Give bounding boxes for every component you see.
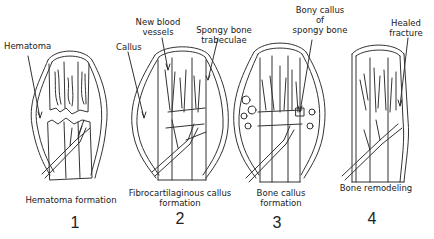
- stage-2-bone-drawing: [132, 47, 229, 180]
- hematoma-arrow: [28, 56, 40, 118]
- stage-4-bone-drawing: [342, 45, 409, 182]
- label-line: spongy bone: [288, 25, 352, 35]
- stage-number-3: 3: [262, 214, 292, 232]
- label-line: fracture: [384, 28, 428, 38]
- label-line: Healed: [384, 18, 428, 28]
- caption-line: Bone callus: [246, 188, 316, 198]
- label-line: Bony callus: [288, 5, 352, 15]
- label-line: Spongy bone: [192, 25, 256, 35]
- caption-line: formation: [118, 198, 242, 208]
- label-line: New blood: [131, 17, 185, 27]
- label-bony-callus-of-spongy-bone: Bony callus of spongy bone: [288, 5, 352, 35]
- stage-3-bone-drawing: [234, 43, 325, 182]
- stage-number-2: 2: [165, 210, 195, 228]
- callus-arrow: [128, 52, 144, 118]
- stage-number-1: 1: [60, 214, 90, 232]
- label-spongy-bone-trabeculae: Spongy bone trabeculae: [192, 25, 256, 45]
- label-line: trabeculae: [192, 35, 256, 45]
- caption-line: formation: [246, 198, 316, 208]
- bony-callus-arrow: [300, 40, 312, 112]
- caption-stage-1: Hematoma formation: [16, 195, 126, 205]
- caption-stage-2: Fibrocartilaginous callus formation: [118, 188, 242, 208]
- stage-1-bone-drawing: [31, 51, 107, 180]
- caption-stage-3: Bone callus formation: [246, 188, 316, 208]
- label-callus: Callus: [116, 42, 142, 52]
- caption-line: Hematoma formation: [16, 195, 126, 205]
- label-line: of: [288, 15, 352, 25]
- caption-line: Bone remodeling: [326, 183, 426, 193]
- stage-number-4: 4: [357, 210, 387, 228]
- caption-stage-4: Bone remodeling: [326, 183, 426, 193]
- label-hematoma: Hematoma: [4, 41, 51, 51]
- caption-line: Fibrocartilaginous callus: [118, 188, 242, 198]
- label-healed-fracture: Healed fracture: [384, 18, 428, 38]
- label-new-blood-vessels: New blood vessels: [131, 17, 185, 37]
- label-line: vessels: [131, 27, 185, 37]
